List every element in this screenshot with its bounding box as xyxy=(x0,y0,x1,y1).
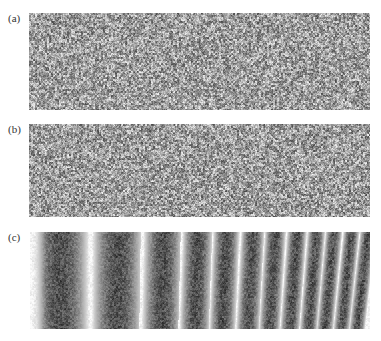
panel-label-a: (a) xyxy=(8,12,20,24)
panel-b-speckle-image xyxy=(29,124,370,217)
speckle-figure: (a) (b) (c) xyxy=(0,0,381,341)
panel-a-speckle-image xyxy=(29,13,370,110)
panel-label-c: (c) xyxy=(8,231,20,243)
panel-label-b: (b) xyxy=(8,123,21,135)
panel-c-fringe-image xyxy=(30,232,370,329)
